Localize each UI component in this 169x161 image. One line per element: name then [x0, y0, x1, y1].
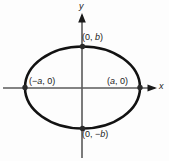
x-axis-arrowhead	[148, 84, 158, 91]
y-axis-arrowhead	[78, 13, 86, 23]
y-axis-label: y	[79, 2, 84, 11]
left-vertex-label: (−a, 0)	[29, 77, 55, 86]
x-axis-label: x	[159, 82, 164, 91]
right-vertex-label: (a, 0)	[107, 77, 128, 86]
vertex-dot-left	[22, 85, 27, 90]
top-vertex-label: (0, b)	[82, 33, 103, 42]
vertex-dot-right	[137, 85, 142, 90]
bottom-vertex-label: (0, −b)	[82, 130, 108, 139]
vertex-dot-top	[80, 44, 85, 49]
ellipse-diagram: y x (0, b) (0, −b) (−a, 0) (a, 0)	[0, 0, 169, 161]
